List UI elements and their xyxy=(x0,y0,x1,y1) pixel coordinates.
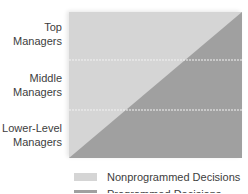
legend-label-programmed: Programmed Decisions xyxy=(107,188,221,194)
label-top-line1: Top xyxy=(0,20,62,34)
label-middle-line2: Managers xyxy=(0,85,62,99)
decision-chart xyxy=(69,12,242,158)
legend-swatch-nonprogrammed xyxy=(74,173,97,181)
legend-label-nonprogrammed: Nonprogrammed Decisions xyxy=(107,171,240,183)
label-lower-line1: Lower-Level xyxy=(0,121,62,135)
label-lower-managers: Lower-Level Managers xyxy=(0,121,62,149)
legend-swatch-programmed xyxy=(74,190,97,194)
label-top-line2: Managers xyxy=(0,34,62,48)
legend-item-programmed: Programmed Decisions xyxy=(74,185,240,193)
legend-item-nonprogrammed: Nonprogrammed Decisions xyxy=(74,168,240,185)
label-middle-managers: Middle Managers xyxy=(0,71,62,99)
label-middle-line1: Middle xyxy=(0,71,62,85)
label-top-managers: Top Managers xyxy=(0,20,62,48)
label-lower-line2: Managers xyxy=(0,135,62,149)
legend: Nonprogrammed Decisions Programmed Decis… xyxy=(74,168,240,193)
chart-graphic xyxy=(69,12,242,158)
